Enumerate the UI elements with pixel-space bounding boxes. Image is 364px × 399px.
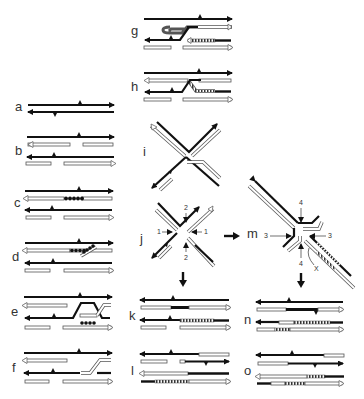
panel-o [255,350,344,387]
panel-j [152,203,240,287]
label-c: c [14,196,21,209]
label-h: h [131,80,138,93]
diagram-canvas [0,0,364,399]
panel-d [22,238,114,274]
marker-triangle [53,113,57,117]
label-g: g [131,24,138,37]
annotation-j-right: 1 [204,228,208,235]
label-b: b [15,144,22,157]
recombination-diagram: a b c d e f g h i j k l m n o 1 1 2 2 3 … [0,0,364,399]
annotation-m-top: 4 [299,199,303,206]
label-k: k [129,309,136,322]
panel-e [22,292,113,331]
label-f: f [12,361,16,374]
label-i: i [143,145,146,158]
panel-k [140,295,231,331]
annotation-j-top: 2 [184,204,188,211]
panel-c [23,186,114,221]
label-o: o [244,364,251,377]
annotation-m-bottom: 4 [299,260,303,267]
label-a: a [15,100,22,113]
protein-beads [64,197,84,201]
label-j: j [140,232,143,245]
down-arrow-icon [297,281,305,288]
panel-a [28,100,114,117]
label-m: m [247,227,258,240]
annotation-m-right: 3 [328,232,332,239]
marker-triangle [78,100,82,104]
panel-h [144,68,233,103]
panel-n [256,297,344,333]
annotation-j-left: 1 [157,228,161,235]
annotation-m-left: 3 [264,232,268,239]
annotation-j-bottom: 2 [184,254,188,261]
panel-g [144,14,233,51]
panel-f [22,348,113,385]
label-n: n [244,313,251,326]
label-l: l [131,364,134,377]
panel-l [139,349,231,385]
panel-b [26,132,116,167]
down-arrow-icon [179,280,187,287]
label-d: d [12,250,19,263]
annotation-crossover-x: X [314,265,319,272]
panel-i [151,122,220,190]
label-e: e [11,305,18,318]
right-arrow-icon [233,232,240,240]
